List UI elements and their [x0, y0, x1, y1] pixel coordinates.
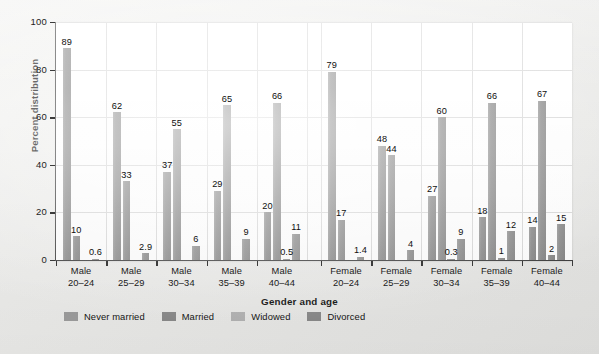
bar-value-label: 10 [62, 225, 90, 235]
y-tick-mark [50, 22, 55, 23]
bar-value-label: 89 [53, 37, 81, 47]
y-tick-label: 60 [7, 111, 47, 122]
bar-value-label: 0.3 [437, 247, 465, 257]
bar-value-label: 9 [232, 227, 260, 237]
x-category-label: Male30–34 [156, 266, 206, 289]
bar [273, 103, 281, 260]
legend-swatch-icon [162, 312, 176, 321]
bar [328, 72, 336, 260]
x-category-label-gender: Female [321, 266, 371, 278]
bar-value-label: 27 [418, 184, 446, 194]
legend-item[interactable]: Divorced [307, 311, 365, 322]
x-category-label: Male35–39 [207, 266, 257, 289]
bar-value-label: 11 [282, 222, 310, 232]
bar [214, 191, 222, 260]
bar-value-label: 0.6 [81, 247, 109, 257]
bar-value-label: 1 [487, 246, 515, 256]
x-category-label-age: 35–39 [207, 278, 257, 290]
gridline-vertical [106, 22, 107, 260]
bar [73, 236, 81, 260]
bar-value-label: 4 [397, 239, 425, 249]
x-category-label: Female30–34 [421, 266, 471, 289]
gridline-vertical [207, 22, 208, 260]
y-tick-label: 80 [7, 64, 47, 75]
x-category-label-gender: Male [106, 266, 156, 278]
bar-value-label: 18 [468, 206, 496, 216]
x-category-label-age: 25–29 [106, 278, 156, 290]
gridline-horizontal [56, 70, 572, 71]
y-tick-mark [50, 260, 55, 261]
gridline-vertical [257, 22, 258, 260]
bar [428, 196, 436, 260]
bar-value-label: 6 [182, 234, 210, 244]
x-category-label-age: 20–24 [56, 278, 106, 290]
x-category-label-gender: Female [472, 266, 522, 278]
bar-value-label: 66 [263, 91, 291, 101]
legend-item[interactable]: Widowed [231, 311, 290, 322]
bar-value-label: 44 [378, 144, 406, 154]
bar-value-label: 15 [547, 213, 575, 223]
x-category-label-gender: Male [56, 266, 106, 278]
bar-value-label: 0.5 [273, 247, 301, 257]
x-category-label: Male25–29 [106, 266, 156, 289]
legend-item[interactable]: Married [162, 311, 214, 322]
gridline-vertical [321, 22, 322, 260]
bar-value-label: 79 [318, 60, 346, 70]
bar [538, 101, 546, 260]
x-category-label-gender: Male [257, 266, 307, 278]
x-category-label-age: 20–24 [321, 278, 371, 290]
bar-value-label: 20 [254, 201, 282, 211]
legend-item-label: Divorced [327, 311, 365, 322]
bar-value-label: 67 [528, 89, 556, 99]
bar [173, 129, 181, 260]
legend-item-label: Never married [84, 311, 145, 322]
bar [378, 146, 386, 260]
x-category-label-gender: Female [371, 266, 421, 278]
bar [192, 246, 200, 260]
y-tick-label: 0 [7, 254, 47, 265]
bar-value-label: 66 [478, 91, 506, 101]
bar-value-label: 2 [538, 244, 566, 254]
x-category-label-age: 30–34 [156, 278, 206, 290]
y-tick-mark [50, 70, 55, 71]
chart-legend: Never marriedMarriedWidowedDivorced [64, 311, 365, 322]
bar-value-label: 33 [113, 170, 141, 180]
bar [142, 253, 150, 260]
plot-inner [56, 22, 572, 260]
y-tick-label: 40 [7, 159, 47, 170]
bar [338, 220, 346, 260]
y-tick-mark [50, 117, 55, 118]
x-category-label-age: 25–29 [371, 278, 421, 290]
bar-value-label: 1.4 [346, 245, 374, 255]
bar [488, 103, 496, 260]
y-axis-line [55, 22, 56, 261]
x-category-label: Female25–29 [371, 266, 421, 289]
bar-value-label: 48 [368, 134, 396, 144]
bar [407, 250, 415, 260]
legend-swatch-icon [231, 312, 245, 321]
legend-item[interactable]: Never married [64, 311, 145, 322]
legend-swatch-icon [64, 312, 78, 321]
y-tick-label: 20 [7, 206, 47, 217]
x-category-label: Male20–24 [56, 266, 106, 289]
bar [479, 217, 487, 260]
bar [113, 112, 121, 260]
bar-value-label: 55 [163, 118, 191, 128]
x-category-label: Female20–24 [321, 266, 371, 289]
y-tick-mark [50, 212, 55, 213]
bar-value-label: 9 [447, 227, 475, 237]
x-category-label-gender: Male [207, 266, 257, 278]
bar-value-label: 65 [213, 94, 241, 104]
x-axis-title: Gender and age [0, 296, 599, 307]
x-category-label-gender: Female [522, 266, 572, 278]
y-tick-mark [50, 165, 55, 166]
x-category-label: Male40–44 [257, 266, 307, 289]
x-category-label-gender: Male [156, 266, 206, 278]
legend-item-label: Married [182, 311, 214, 322]
bar [557, 224, 565, 260]
x-category-label: Female35–39 [472, 266, 522, 289]
bar [264, 212, 272, 260]
legend-swatch-icon [307, 312, 321, 321]
gridline-vertical [156, 22, 157, 260]
bar-value-label: 62 [103, 101, 131, 111]
